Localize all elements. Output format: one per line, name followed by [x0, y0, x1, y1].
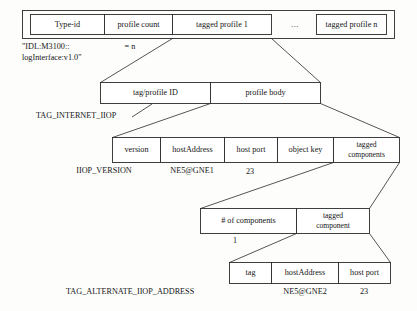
host-port-value: 23 [246, 167, 254, 176]
version-value: IIOP_VERSION [76, 166, 132, 175]
cell-tagged-components-label-line1: tagged [356, 140, 376, 149]
profile-body-row: version hostAddress host port object key… [113, 138, 400, 163]
cell-alt-host-address-label: hostAddress [285, 268, 325, 277]
cell-num-components-label: # of components [221, 216, 276, 225]
cell-tagged-component-label-line1: tagged [323, 211, 343, 220]
tagged-components-row: # of components tagged component [201, 209, 370, 234]
cell-tagged-components-label-line2: components [348, 150, 385, 159]
connector-component-to-row5 [230, 234, 391, 263]
cell-tagged-profile-1-label: tagged profile 1 [196, 20, 248, 29]
cell-tagged-component-label-line2: component [316, 221, 351, 230]
host-address-value: NE5@GNE1 [170, 166, 213, 175]
leader-tag-internet-iiop [132, 104, 152, 117]
cell-profile-body-label: profile body [245, 88, 286, 97]
cell-host-address-label: hostAddress [172, 145, 212, 154]
cell-ellipsis-label: ... [291, 19, 299, 29]
cell-host-port-label: host port [237, 145, 267, 154]
cell-version-label: version [124, 145, 148, 154]
ior-structure-row: Type-id profile count tagged profile 1 .… [23, 11, 395, 39]
tag-profile-id-value: TAG_INTERNET_IIOP [36, 111, 117, 120]
cell-object-key-label: object key [289, 145, 324, 154]
diagram-canvas: Type-id profile count tagged profile 1 .… [0, 0, 417, 311]
cell-profile-count-label: profile count [117, 20, 160, 29]
type-id-value-line1: "IDL:M3100:: [22, 42, 69, 51]
component-count-value: 1 [233, 236, 237, 245]
connector-components-to-row4 [201, 163, 400, 209]
type-id-value-line2: logInterface:v1.0" [22, 53, 82, 62]
cell-alt-host-port-label: host port [350, 268, 380, 277]
connector-profile-body-to-detail [113, 104, 400, 138]
cell-alt-tag-label: tag [245, 268, 255, 277]
alternate-tag-value: TAG_ALTERNATE_IIOP_ADDRESS [66, 287, 195, 296]
diagram-root: Type-id profile count tagged profile 1 .… [0, 0, 417, 311]
alternate-host-address-value: NE5@GNE2 [283, 287, 326, 296]
alternate-address-row: tag hostAddress host port [230, 263, 391, 284]
alternate-host-port-value: 23 [360, 287, 368, 296]
cell-tag-profile-id-label: tag/profile ID [133, 88, 178, 97]
profile-count-value: = n [125, 42, 136, 51]
tagged-profile-row: tag/profile ID profile body [101, 83, 321, 104]
cell-type-id-label: Type-id [55, 20, 80, 29]
cell-tagged-profile-n-label: tagged profile n [326, 20, 378, 29]
